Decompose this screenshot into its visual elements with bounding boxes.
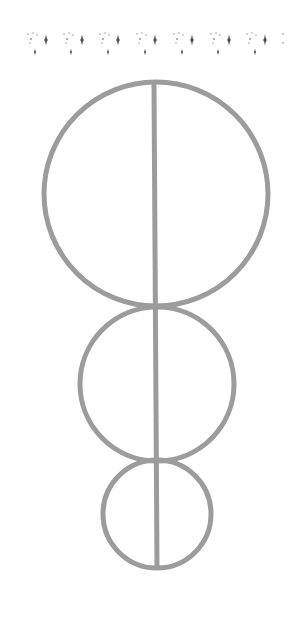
dot-icon — [27, 33, 28, 34]
dot-icon — [66, 38, 68, 40]
dot-icon — [101, 42, 102, 43]
dot-icon — [65, 42, 66, 43]
dot-icon — [249, 38, 251, 40]
dot-icon — [282, 33, 284, 35]
sparkle-small-icon — [107, 48, 109, 55]
sparkle-large-icon — [153, 34, 157, 46]
sparkle-large-icon — [190, 34, 194, 46]
dot-icon — [215, 32, 216, 33]
dot-icon — [136, 33, 137, 34]
stacked-circles-glyph — [44, 82, 268, 568]
sparkle-large-icon — [116, 34, 120, 46]
sparkle-border — [27, 32, 284, 55]
sparkle-small-icon — [254, 48, 256, 55]
dot-icon — [182, 34, 183, 35]
vertical-axis-line — [154, 82, 157, 568]
dot-icon — [138, 42, 139, 43]
dot-icon — [282, 42, 284, 44]
dot-icon — [248, 42, 249, 43]
sparkle-large-icon — [263, 34, 267, 46]
dot-icon — [30, 38, 32, 40]
sparkle-small-icon — [144, 48, 146, 55]
sparkle-small-icon — [70, 48, 72, 55]
sparkle-small-icon — [217, 48, 219, 55]
sparkle-small-icon — [181, 48, 183, 55]
sparkle-large-icon — [80, 34, 84, 46]
dot-icon — [145, 34, 146, 35]
dot-icon — [251, 32, 252, 33]
sparkle-large-icon — [227, 34, 231, 46]
dot-icon — [141, 32, 142, 33]
dot-icon — [246, 33, 247, 34]
dot-icon — [99, 33, 100, 34]
dot-icon — [29, 42, 30, 43]
dot-icon — [255, 34, 256, 35]
circle-glyph-figure — [0, 0, 302, 617]
dot-icon — [178, 32, 179, 33]
dot-icon — [213, 38, 215, 40]
sparkle-small-icon — [34, 48, 36, 55]
dot-icon — [210, 33, 211, 34]
sparkle-large-icon — [44, 34, 48, 46]
dot-icon — [176, 38, 178, 40]
dot-icon — [212, 42, 213, 43]
dot-icon — [68, 32, 69, 33]
dot-icon — [36, 34, 37, 35]
dot-icon — [108, 34, 109, 35]
dot-icon — [104, 32, 105, 33]
dot-icon — [175, 42, 176, 43]
dot-icon — [102, 38, 104, 40]
dot-icon — [173, 33, 174, 34]
dot-icon — [32, 32, 33, 33]
dot-icon — [219, 34, 220, 35]
dot-icon — [139, 38, 141, 40]
dot-icon — [63, 33, 64, 34]
dot-icon — [72, 34, 73, 35]
